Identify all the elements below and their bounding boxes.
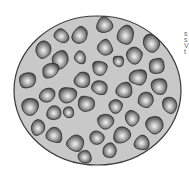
particle [63, 107, 73, 118]
particle-diagram [0, 0, 189, 176]
particle [113, 56, 123, 66]
particle [19, 73, 35, 88]
particle [149, 58, 164, 73]
particle [138, 92, 153, 108]
particle [103, 143, 116, 158]
particle [78, 150, 91, 163]
particle [129, 70, 147, 86]
caption-line: t [184, 49, 189, 55]
particle [78, 96, 94, 111]
cropped-caption: s s V t [184, 31, 189, 55]
